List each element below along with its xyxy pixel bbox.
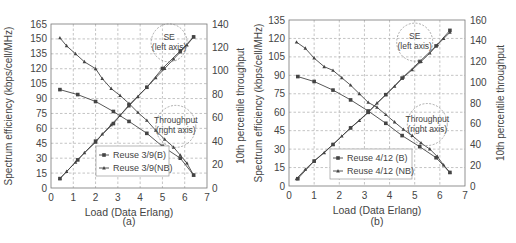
x-tick-label: 0	[48, 192, 54, 203]
se-annotation: SE(left axis)	[151, 24, 187, 62]
x-tick-label: 2	[93, 192, 99, 203]
x-tick-label: 1	[311, 190, 317, 201]
x-tick-label: 3	[115, 192, 121, 203]
y-tick-label: 30	[36, 153, 48, 164]
x-tick-label: 5	[160, 192, 166, 203]
x-tick-label: 0	[286, 190, 292, 201]
square-marker	[312, 80, 316, 84]
y2-tick-label: 80	[212, 89, 224, 100]
y2-tick-label: 100	[470, 77, 487, 88]
y-tick-label: 120	[268, 33, 285, 44]
x-tick-label: 6	[437, 190, 443, 201]
x-tick-label: 4	[387, 190, 393, 201]
square-marker	[58, 88, 62, 92]
y2-axis-label: 10th percentile throughput	[235, 48, 246, 164]
y2-tick-label: 140	[470, 35, 487, 46]
x-tick-label: 7	[462, 190, 468, 201]
chart-panel-b: 0123456701530456075901051201350204060801…	[253, 15, 506, 228]
y-tick-label: 15	[36, 168, 48, 179]
square-marker	[76, 93, 80, 97]
svg-text:SE: SE	[409, 31, 421, 41]
square-marker	[331, 88, 335, 92]
svg-text:Throughput: Throughput	[154, 115, 198, 125]
x-tick-label: 5	[412, 190, 418, 201]
square-marker	[349, 98, 353, 102]
figure: 0123456701530456075901051201351501650204…	[0, 0, 516, 243]
y2-tick-label: 40	[212, 136, 224, 147]
y-tick-label: 0	[41, 183, 47, 194]
square-marker	[384, 121, 388, 125]
square-marker	[112, 110, 116, 114]
y-tick-label: 45	[274, 125, 286, 136]
y-tick-label: 135	[30, 48, 47, 59]
y-tick-label: 105	[268, 51, 285, 62]
svg-text:SE: SE	[163, 32, 175, 42]
legend-label: Reuse 3/9(NB)	[113, 163, 173, 173]
throughput-annotation: Throughput(right axis)	[154, 105, 198, 147]
x-tick-label: 7	[204, 192, 210, 203]
se-annotation: SE(left axis)	[397, 23, 433, 61]
square-marker	[94, 100, 98, 104]
y-tick-label: 120	[30, 63, 47, 74]
y-tick-label: 150	[30, 33, 47, 44]
y-tick-label: 165	[30, 19, 47, 30]
legend: Reuse 3/9(B)Reuse 3/9(NB)	[96, 146, 173, 176]
y2-tick-label: 120	[470, 56, 487, 67]
panel-caption: (a)	[123, 215, 136, 227]
square-marker	[418, 145, 422, 149]
square-marker	[336, 156, 340, 160]
y2-tick-label: 20	[212, 159, 224, 170]
y-tick-label: 75	[274, 88, 286, 99]
y-tick-label: 30	[274, 144, 286, 155]
y-tick-label: 60	[274, 107, 286, 118]
triangle-marker	[295, 40, 299, 43]
square-marker	[296, 75, 300, 79]
y-axis-label: Spectrum efficiency (kbps/cell/MHz)	[253, 24, 264, 183]
legend-label: Reuse 4/12 (B)	[347, 153, 408, 163]
figure-svg: 0123456701530456075901051201351501650204…	[0, 0, 516, 243]
y-tick-label: 90	[36, 93, 48, 104]
y2-tick-label: 0	[212, 183, 218, 194]
square-marker	[102, 153, 106, 157]
y-tick-label: 105	[30, 78, 47, 89]
y2-tick-label: 60	[212, 112, 224, 123]
x-tick-label: 4	[137, 192, 143, 203]
triangle-marker	[410, 134, 414, 137]
legend-label: Reuse 4/12 (NB)	[347, 166, 414, 176]
x-tick-label: 3	[362, 190, 368, 201]
triangle-marker	[58, 36, 62, 39]
y-tick-label: 60	[36, 123, 48, 134]
legend-label: Reuse 3/9(B)	[113, 150, 166, 160]
x-tick-label: 6	[182, 192, 188, 203]
y2-tick-label: 20	[470, 160, 482, 171]
svg-text:Throughput: Throughput	[406, 114, 450, 124]
square-marker	[400, 134, 404, 138]
chart-panel-a: 0123456701530456075901051201351501650204…	[3, 19, 246, 228]
y-tick-label: 75	[36, 108, 48, 119]
y-tick-label: 0	[279, 181, 285, 192]
legend: Reuse 4/12 (B)Reuse 4/12 (NB)	[330, 149, 414, 179]
x-tick-label: 1	[71, 192, 77, 203]
y2-tick-label: 140	[212, 19, 229, 30]
y-tick-label: 90	[274, 70, 286, 81]
square-marker	[127, 120, 131, 124]
y2-axis-label: 10th percentile throughput	[495, 45, 506, 161]
y2-tick-label: 80	[470, 98, 482, 109]
panel-caption: (b)	[371, 215, 384, 227]
y-tick-label: 45	[36, 138, 48, 149]
svg-text:(right axis): (right axis)	[407, 124, 447, 134]
y2-tick-label: 0	[470, 181, 476, 192]
svg-text:(left axis): (left axis)	[397, 41, 432, 51]
y2-tick-label: 60	[470, 118, 482, 129]
throughput-annotation: Throughput(right axis)	[406, 104, 450, 146]
y2-tick-label: 120	[212, 42, 229, 53]
y-tick-label: 135	[268, 15, 285, 26]
y-tick-label: 15	[274, 162, 286, 173]
svg-text:(left axis): (left axis)	[152, 42, 187, 52]
x-tick-label: 2	[337, 190, 343, 201]
y2-tick-label: 40	[470, 139, 482, 150]
square-marker	[145, 132, 149, 136]
y2-tick-label: 100	[212, 65, 229, 76]
y2-tick-label: 160	[470, 15, 487, 26]
svg-text:(right axis): (right axis)	[156, 125, 196, 135]
